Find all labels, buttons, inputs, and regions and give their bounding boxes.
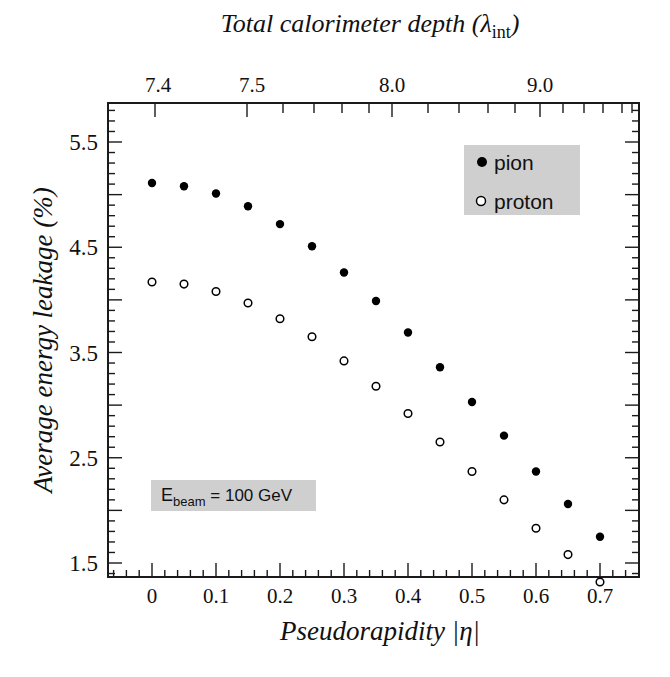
y-tick-label: 5.5 [69, 130, 98, 155]
x-tick-label: 0 [147, 584, 158, 608]
top-tick-label: 8.0 [379, 73, 405, 97]
x-tick-label: 0.6 [523, 584, 549, 608]
proton-point [340, 357, 348, 365]
x-tick-labels: 00.10.20.30.40.50.60.7 [147, 584, 613, 608]
pion-point [148, 179, 156, 187]
x-axis-label: Pseudorapidity |η| [279, 616, 480, 646]
y-tick-label: 4.5 [69, 235, 98, 260]
pion-point [308, 242, 316, 250]
proton-point [212, 288, 220, 296]
pion-point [596, 532, 604, 540]
x-tick-label: 0.4 [395, 584, 422, 608]
x-tick-label: 0.1 [203, 584, 229, 608]
proton-point [500, 496, 508, 504]
top-tick-labels: 7.47.58.09.0 [145, 73, 553, 97]
legend-label-pion: pion [494, 151, 534, 174]
pion-point [532, 467, 540, 475]
pion-point [180, 182, 188, 190]
proton-point [180, 280, 188, 288]
x-tick-label: 0.7 [587, 584, 613, 608]
proton-point [148, 278, 156, 286]
proton-point [372, 382, 380, 390]
pion-point [212, 189, 220, 197]
y-tick-label: 1.5 [69, 551, 98, 576]
chart: Total calorimeter depth (λint) 7.47.58.0… [0, 0, 670, 677]
proton-point [404, 410, 412, 418]
pion-point [244, 202, 252, 210]
pion-point [564, 500, 572, 508]
y-tick-label: 2.5 [69, 446, 98, 471]
pion-point [436, 363, 444, 371]
x-tick-label: 0.5 [459, 584, 485, 608]
top-axis-title: Total calorimeter depth (λint) [221, 9, 520, 42]
proton-point [596, 578, 604, 586]
y-axis-label: Average energy leakage (%) [28, 187, 58, 495]
top-tick-label: 7.5 [239, 73, 265, 97]
top-tick-label: 7.4 [145, 73, 172, 97]
proton-point [276, 315, 284, 323]
proton-marker-icon [477, 197, 486, 206]
proton-point [564, 551, 572, 559]
data-points [148, 179, 604, 586]
beam-energy-annotation: Ebeam = 100 GeV [151, 480, 316, 511]
pion-point [500, 431, 508, 439]
y-tick-labels: 1.52.53.54.55.5 [69, 130, 98, 576]
y-tick-label: 3.5 [69, 341, 98, 366]
x-tick-label: 0.3 [331, 584, 357, 608]
x-tick-label: 0.2 [267, 584, 293, 608]
legend-label-proton: proton [494, 190, 554, 213]
proton-point [468, 468, 476, 476]
pion-marker-icon [477, 157, 487, 167]
proton-point [532, 524, 540, 532]
proton-point [436, 438, 444, 446]
legend: pion proton [464, 145, 580, 215]
proton-point [244, 299, 252, 307]
proton-point [308, 333, 316, 341]
pion-point [468, 398, 476, 406]
pion-point [276, 220, 284, 228]
top-tick-label: 9.0 [527, 73, 553, 97]
pion-point [404, 328, 412, 336]
pion-point [372, 297, 380, 305]
pion-point [340, 268, 348, 276]
